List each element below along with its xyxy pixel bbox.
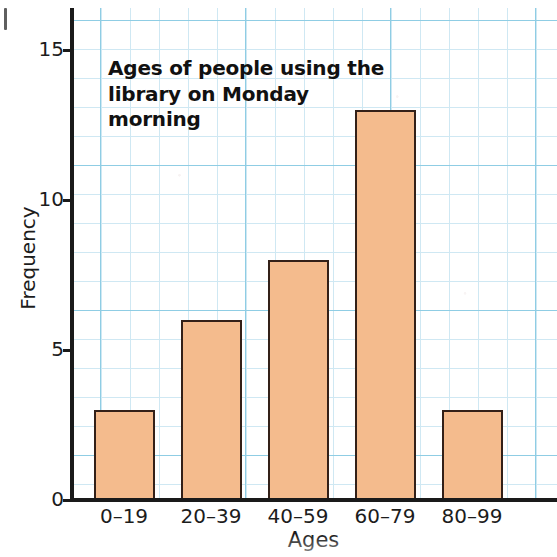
y-tick-label-0: 0	[30, 489, 64, 509]
x-axis-line	[70, 498, 557, 502]
bar-20-39	[181, 320, 242, 500]
y-tick-mark-0	[63, 499, 74, 502]
chart-title: Ages of people using the library on Mond…	[108, 56, 408, 133]
scan-artifact-mark	[4, 8, 7, 30]
histogram-chart: 051015 0–1920–3940–5960–7980–99 Frequenc…	[0, 0, 557, 557]
y-axis-title: Frequency	[16, 178, 40, 338]
x-axis-title: Ages	[70, 528, 557, 552]
x-category-label-4: 80–99	[417, 504, 527, 528]
bar-40-59	[268, 260, 329, 500]
y-tick-mark-5	[63, 349, 74, 352]
bar-80-99	[442, 410, 503, 500]
y-tick-mark-15	[63, 49, 74, 52]
y-axis-line	[70, 8, 74, 502]
bar-0-19	[94, 410, 155, 500]
y-tick-label-5: 5	[30, 339, 64, 359]
y-tick-mark-10	[63, 199, 74, 202]
chart-title-line-2: library on Monday morning	[108, 82, 408, 133]
bar-60-79	[355, 110, 416, 500]
y-tick-label-15: 15	[30, 39, 64, 59]
chart-title-line-1: Ages of people using the	[108, 56, 408, 82]
